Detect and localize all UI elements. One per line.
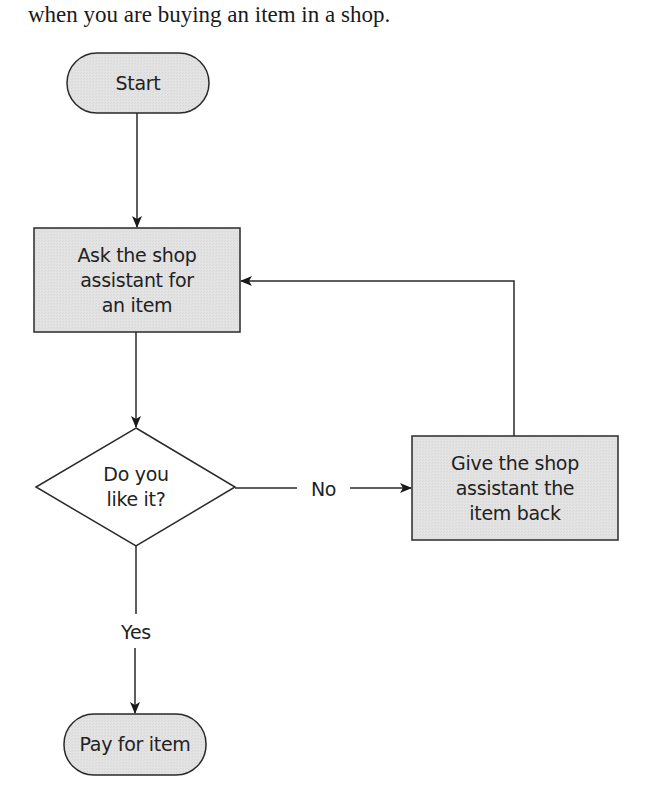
decision-label: Do you like it? <box>86 460 186 514</box>
edge-label-yes: Yes <box>106 618 166 646</box>
decision-label-line-2: like it? <box>106 487 165 512</box>
decision-label-line-1: Do you <box>103 462 168 487</box>
start-label-text: Start <box>116 71 161 96</box>
give-back-label-line-2: assistant the <box>456 476 575 501</box>
pay-label: Pay for item <box>64 714 206 775</box>
start-label: Start <box>67 53 209 113</box>
edge-label-no: No <box>297 476 350 502</box>
edge-label-no-text: No <box>311 477 336 502</box>
give-back-label-line-1: Give the shop <box>451 451 579 476</box>
flowchart <box>0 0 653 810</box>
ask-label-line-2: assistant for <box>80 268 193 293</box>
pay-label-text: Pay for item <box>79 732 190 757</box>
ask-label-line-1: Ask the shop <box>77 243 196 268</box>
give-back-label-line-3: item back <box>469 501 560 526</box>
ask-label-line-3: an item <box>102 293 173 318</box>
edge-loop-back <box>241 281 514 436</box>
ask-label: Ask the shop assistant for an item <box>34 230 240 330</box>
edge-label-yes-text: Yes <box>121 620 151 645</box>
give-back-label: Give the shop assistant the item back <box>412 438 618 538</box>
